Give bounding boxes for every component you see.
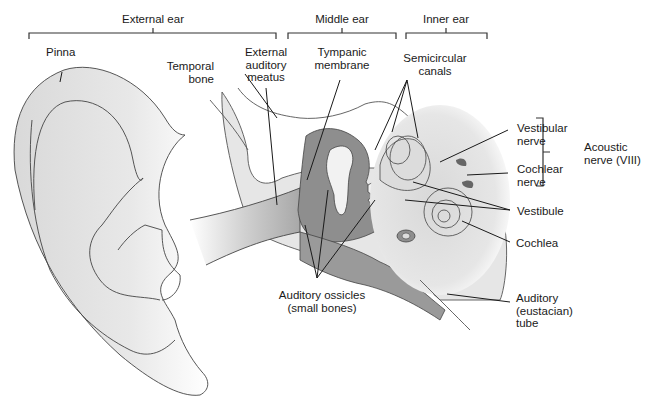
section-label-external-ear: External ear — [108, 13, 198, 26]
bracket-middle-ear — [288, 28, 396, 39]
label-semicircular-canals: Semicircular canals — [400, 52, 470, 77]
label-temporal-bone: Temporal bone — [164, 60, 214, 85]
label-vestibular-nerve: Vestibular nerve — [517, 122, 568, 147]
section-label-inner-ear: Inner ear — [410, 13, 482, 26]
bracket-inner-ear — [406, 28, 487, 39]
label-vestibule: Vestibule — [517, 205, 564, 218]
inner-ear-shape — [370, 105, 510, 295]
label-auditory-tube: Auditory (eustacian) tube — [516, 292, 573, 330]
label-auditory-ossicles: Auditory ossicles (small bones) — [270, 289, 374, 314]
label-external-auditory-meatus: External auditory meatus — [240, 46, 292, 84]
label-pinna: Pinna — [46, 46, 75, 59]
bracket-external-ear — [29, 28, 276, 39]
label-tympanic-membrane: Tympanic membrane — [312, 46, 372, 71]
section-label-middle-ear: Middle ear — [305, 13, 379, 26]
label-cochlea: Cochlea — [516, 237, 558, 250]
label-cochlear-nerve: Cochlear nerve — [517, 163, 563, 188]
label-acoustic-nerve: Acoustic nerve (VIII) — [584, 141, 641, 166]
pinna-shape — [14, 67, 208, 395]
